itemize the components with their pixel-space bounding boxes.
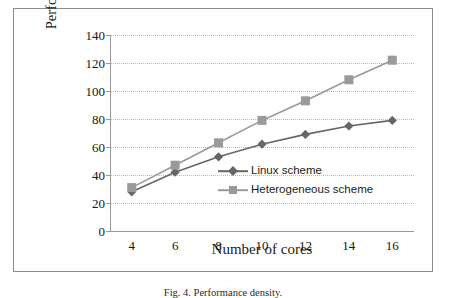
- chart-legend: Linux scheme Heterogeneous scheme: [218, 164, 373, 197]
- data-point-square-icon: [214, 138, 223, 147]
- figure-container: Performance density (MBps/GB) 0204060801…: [0, 0, 450, 298]
- data-point-square-icon: [344, 75, 353, 84]
- legend-label: Linux scheme: [251, 165, 322, 177]
- y-tick-label: 80: [92, 113, 105, 126]
- legend-swatch-square-icon: [218, 184, 248, 196]
- y-tick-label: 60: [92, 141, 105, 154]
- legend-label: Heterogeneous scheme: [251, 184, 373, 196]
- data-point-diamond-icon: [388, 116, 397, 125]
- data-point-square-icon: [171, 161, 180, 170]
- data-point-square-icon: [301, 96, 310, 105]
- data-point-diamond-icon: [214, 152, 223, 161]
- data-point-square-icon: [127, 183, 136, 192]
- figure-caption: Fig. 4. Performance density.: [13, 287, 433, 298]
- data-point-diamond-icon: [257, 140, 266, 149]
- x-axis-title: Number of cores: [110, 241, 414, 258]
- y-tick-label: 40: [92, 169, 105, 182]
- y-tick-label: 120: [86, 57, 106, 70]
- chart-frame: Performance density (MBps/GB) 0204060801…: [13, 8, 433, 272]
- x-axis-line: [110, 231, 414, 232]
- data-point-square-icon: [388, 56, 397, 65]
- y-tick-label: 20: [92, 197, 105, 210]
- data-point-square-icon: [258, 116, 267, 125]
- y-tick-label: 0: [99, 225, 106, 238]
- plot-inner: 020406080100120140 46810121416: [110, 35, 414, 231]
- data-point-diamond-icon: [301, 130, 310, 139]
- data-point-diamond-icon: [344, 121, 353, 130]
- y-tick-mark: [106, 231, 111, 232]
- plot-area: 020406080100120140 46810121416: [110, 27, 414, 231]
- y-tick-label: 140: [86, 29, 106, 42]
- y-axis-title: Performance density (MBps/GB): [40, 0, 62, 31]
- legend-item-heterogeneous-scheme[interactable]: Heterogeneous scheme: [218, 183, 373, 197]
- legend-swatch-diamond-icon: [218, 165, 248, 177]
- legend-item-linux-scheme[interactable]: Linux scheme: [218, 164, 373, 178]
- y-tick-label: 100: [86, 85, 106, 98]
- series-overlay: [110, 35, 414, 231]
